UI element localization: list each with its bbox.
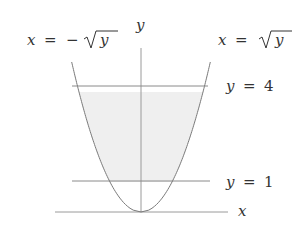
left-curve-label: x = − y [27,31,118,49]
svg-text:y: y [99,31,109,49]
svg-text:x: x [27,31,36,49]
svg-text:y: y [225,77,235,95]
svg-text:−: − [66,31,79,49]
y-axis-label: y [135,16,145,34]
svg-text:1: 1 [264,173,274,191]
svg-text:y: y [274,31,284,49]
line-y-4-label: y = 4 [225,77,274,95]
svg-text:y: y [225,173,235,191]
line-y-1-label: y = 1 [225,173,274,191]
region-diagram: y x x = − y x = y y = 4 y = 1 [0,0,297,234]
x-axis-label: x [238,202,247,220]
svg-text:=: = [44,31,57,49]
svg-text:=: = [243,77,256,95]
svg-text:=: = [243,173,256,191]
svg-text:x: x [218,31,227,49]
svg-text:4: 4 [264,77,274,95]
right-curve-label: x = y [218,31,292,49]
svg-text:=: = [235,31,248,49]
